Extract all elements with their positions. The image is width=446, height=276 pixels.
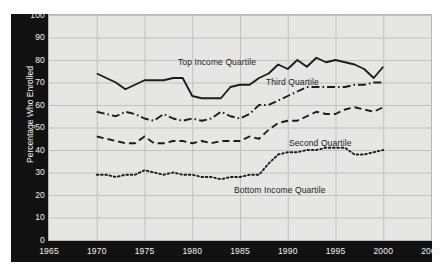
series-label-top-income-quartile: Top Income Quartile xyxy=(178,57,256,67)
series-line-bottom-income-quartile xyxy=(97,148,384,180)
plot-svg xyxy=(49,15,431,240)
y-axis-tick-10: 10 xyxy=(15,213,45,222)
y-axis-tick-20: 20 xyxy=(15,191,45,200)
x-axis-tick-1965: 1965 xyxy=(29,246,69,256)
y-axis-band: Percentage Who Enrolled 1009080706050403… xyxy=(11,14,48,262)
series-label-second-quartile: Second Quartile xyxy=(289,138,351,148)
plot-area: Top Income Quartile Third Quartile Secon… xyxy=(48,14,432,241)
x-axis-tick-1970: 1970 xyxy=(77,246,117,256)
y-axis-tick-80: 80 xyxy=(15,56,45,65)
y-axis-tick-70: 70 xyxy=(15,78,45,87)
x-axis-tick-1995: 1995 xyxy=(316,246,356,256)
y-axis-tick-100: 100 xyxy=(15,11,45,20)
x-axis-tick-1985: 1985 xyxy=(220,246,260,256)
x-axis-tick-2000: 2000 xyxy=(363,246,403,256)
y-axis-tick-40: 40 xyxy=(15,146,45,155)
x-axis-tick-1980: 1980 xyxy=(172,246,212,256)
series-label-third-quartile: Third Quartile xyxy=(266,77,319,87)
x-axis-tick-1990: 1990 xyxy=(268,246,308,256)
series-line-third-quartile xyxy=(97,83,384,121)
x-axis-tick-1975: 1975 xyxy=(125,246,165,256)
y-axis-tick-30: 30 xyxy=(15,168,45,177)
y-axis-tick-60: 60 xyxy=(15,101,45,110)
y-axis-tick-90: 90 xyxy=(15,33,45,42)
series-label-bottom-income-quartile: Bottom Income Quartile xyxy=(234,185,326,195)
y-axis-tick-0: 0 xyxy=(15,236,45,245)
x-axis-tick-2005: 2005 xyxy=(411,246,446,256)
y-axis-tick-50: 50 xyxy=(15,123,45,132)
y-axis-title: Percentage Who Enrolled xyxy=(26,50,35,180)
